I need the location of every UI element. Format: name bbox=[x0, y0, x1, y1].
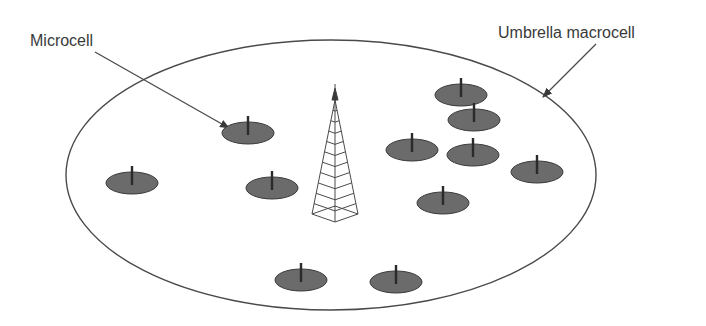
microcell bbox=[386, 133, 438, 161]
microcell bbox=[448, 103, 500, 131]
microcell bbox=[222, 116, 274, 144]
macrocell-arrow bbox=[543, 44, 596, 97]
macrocell-label: Umbrella macrocell bbox=[498, 24, 635, 41]
umbrella-cell-diagram: Microcell Umbrella macrocell bbox=[0, 0, 706, 326]
microcell-label: Microcell bbox=[30, 32, 93, 49]
microcell bbox=[511, 155, 563, 183]
microcell bbox=[370, 265, 422, 293]
microcell bbox=[447, 138, 499, 166]
microcell-arrow bbox=[95, 52, 229, 128]
microcell bbox=[417, 186, 469, 214]
microcell bbox=[106, 166, 158, 194]
microcell bbox=[275, 263, 327, 291]
microcell bbox=[435, 78, 487, 106]
microcell bbox=[246, 171, 298, 199]
macrocell-tower-icon bbox=[312, 84, 358, 222]
